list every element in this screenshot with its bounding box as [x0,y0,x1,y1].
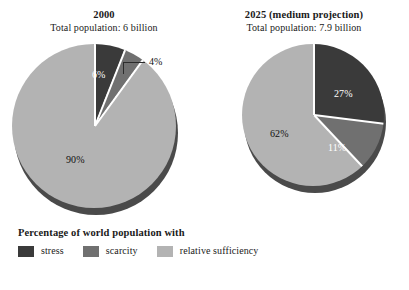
legend-label-scarcity: scarcity [106,245,138,257]
chart-subtitle-2025: Total population: 7.9 billion [204,22,404,34]
legend-label-stress: stress [41,245,64,257]
slice-label-scarcity-2025: 11% [328,142,346,153]
slice-label-stress-2025: 27% [334,88,353,99]
legend-heading: Percentage of world population with [18,226,258,239]
legend-swatch-relative-sufficiency [157,246,173,257]
chart-panel-2000: 2000 Total population: 6 billion 6% 90% … [4,0,204,216]
legend-label-relative-sufficiency: relative sufficiency [180,245,259,257]
pie-chart-2000: 6% 90% 4% [12,44,190,216]
slice-label-relative-sufficiency-2000: 90% [66,154,85,165]
pie-chart-2025: 27% 11% 62% [242,44,388,216]
chart-subtitle-2000: Total population: 6 billion [4,22,204,34]
legend-item-scarcity: scarcity [83,245,138,257]
slice-label-relative-sufficiency-2025: 62% [270,128,289,139]
pie-separator [94,44,96,126]
pie-separator [313,44,315,115]
chart-panel-2025: 2025 (medium projection) Total populatio… [204,0,404,216]
legend-item-stress: stress [18,245,64,257]
slice-label-scarcity-2000: 4% [149,56,162,67]
chart-title-2025: 2025 (medium projection) [204,9,404,21]
legend-swatch-scarcity [83,246,99,257]
legend: Percentage of world population with stre… [18,226,258,257]
legend-item-relative-sufficiency: relative sufficiency [157,245,259,257]
chart-title-2000: 2000 [4,9,204,21]
legend-swatch-stress [18,246,34,257]
slice-label-stress-2000: 6% [92,69,106,80]
pie-separator [313,114,363,167]
pie-disc-2025 [242,44,384,186]
callout-elbow-scarcity-2000 [123,62,124,74]
callout-line-scarcity-2000 [123,62,145,63]
legend-items: stress scarcity relative sufficiency [18,245,258,257]
pie-separator [314,114,384,125]
